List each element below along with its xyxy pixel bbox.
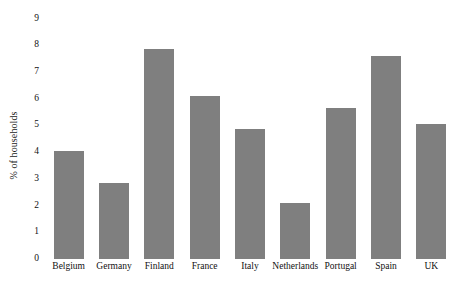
y-tick-label: 7 [34,67,39,77]
bar-group[interactable]: UK [409,0,454,291]
bar-group[interactable]: Germany [91,0,136,291]
x-tick-label: Belgium [52,262,85,272]
x-tick-label: Netherlands [272,262,318,272]
y-tick-label: 4 [34,147,39,157]
y-tick-label: 8 [34,40,39,50]
y-axis-title-label: % of households [8,111,19,179]
x-tick-label: Germany [96,262,131,272]
y-tick-label: 6 [34,94,39,104]
bar-group[interactable]: Spain [363,0,408,291]
x-tick-label: France [192,262,218,272]
y-tick-label: 0 [34,254,39,264]
x-tick-label: UK [424,262,438,272]
bar-series: BelgiumGermanyFinlandFranceItalyNetherla… [46,0,454,291]
bar[interactable] [54,151,84,259]
bar-group[interactable]: Netherlands [273,0,318,291]
bar[interactable] [326,108,356,259]
y-tick-label: 3 [34,174,39,184]
bar[interactable] [190,96,220,259]
bar[interactable] [144,49,174,259]
y-tick-label: 9 [34,14,39,24]
plot-area: 0123456789 BelgiumGermanyFinlandFranceIt… [46,0,454,291]
x-tick-label: Finland [145,262,174,272]
bar-group[interactable]: Finland [137,0,182,291]
y-tick-label: 5 [34,121,39,131]
bar[interactable] [371,56,401,259]
y-tick-label: 2 [34,201,39,211]
bar[interactable] [416,124,446,259]
bar-group[interactable]: France [182,0,227,291]
y-tick-label: 1 [34,228,39,238]
bar[interactable] [99,183,129,259]
bar-group[interactable]: Italy [227,0,272,291]
bar-chart: % of households 0123456789 BelgiumGerman… [0,0,459,291]
bar[interactable] [280,203,310,259]
x-tick-label: Portugal [325,262,357,272]
bar-group[interactable]: Portugal [318,0,363,291]
bar-group[interactable]: Belgium [46,0,91,291]
x-tick-label: Spain [375,262,397,272]
x-tick-label: Italy [241,262,258,272]
bar[interactable] [235,129,265,259]
